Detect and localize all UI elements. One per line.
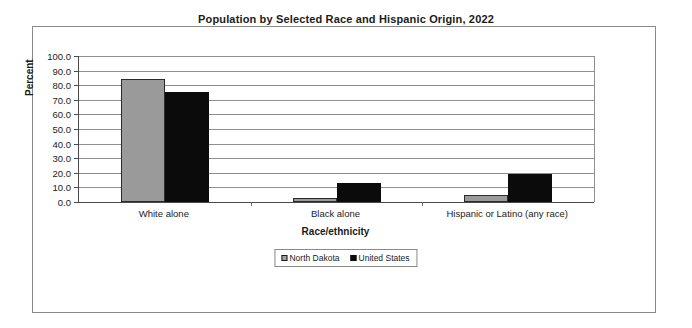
y-axis-tick: [74, 85, 79, 86]
bar-united-states-hispanic-or-latino-any-race: [508, 174, 552, 202]
bar-united-states-white-alone: [165, 92, 209, 202]
legend-swatch-icon: [281, 255, 287, 261]
x-axis-category-label: White alone: [139, 208, 189, 219]
x-axis-category-label: Hispanic or Latino (any race): [446, 208, 567, 219]
legend-item-label: North Dakota: [289, 253, 339, 263]
x-axis-title: Race/ethnicity: [78, 226, 593, 237]
y-axis-tick-label: 80.0: [53, 80, 72, 91]
y-axis-tick: [74, 187, 79, 188]
y-axis-tick-label: 0.0: [58, 197, 71, 208]
y-axis-tick-label: 40.0: [53, 138, 72, 149]
y-axis-tick-label: 10.0: [53, 182, 72, 193]
legend-swatch-icon: [351, 255, 357, 261]
y-axis-tick: [74, 158, 79, 159]
bar-north-dakota-white-alone: [121, 79, 165, 202]
y-axis-tick-label: 60.0: [53, 109, 72, 120]
y-axis-tick-label: 90.0: [53, 65, 72, 76]
y-axis-tick-label: 70.0: [53, 94, 72, 105]
y-axis-tick: [74, 71, 79, 72]
y-axis-tick-label: 100.0: [47, 51, 71, 62]
y-axis-tick: [74, 173, 79, 174]
y-axis-tick: [74, 56, 79, 57]
legend-item-north-dakota[interactable]: North Dakota: [281, 253, 339, 263]
y-axis-tick-label: 50.0: [53, 124, 72, 135]
y-axis-tick: [74, 129, 79, 130]
plot-area: 100.090.080.070.060.050.040.030.020.010.…: [78, 56, 594, 203]
bar-united-states-black-alone: [337, 183, 381, 202]
bar-north-dakota-hispanic-or-latino-any-race: [464, 195, 508, 202]
y-axis-title: Percent: [24, 59, 35, 96]
chart-legend: North DakotaUnited States: [274, 249, 417, 267]
y-axis-tick: [74, 202, 79, 203]
x-axis-separator: [422, 202, 423, 206]
chart-title: Population by Selected Race and Hispanic…: [0, 13, 692, 25]
y-axis-tick: [74, 114, 79, 115]
gridline: [79, 56, 594, 57]
y-axis-tick: [74, 100, 79, 101]
bar-north-dakota-black-alone: [293, 198, 337, 202]
legend-item-label: United States: [359, 253, 410, 263]
x-axis-category-label: Black alone: [311, 208, 360, 219]
legend-item-united-states[interactable]: United States: [351, 253, 410, 263]
plot-right-border: [594, 56, 595, 202]
y-axis-tick-label: 20.0: [53, 167, 72, 178]
gridline: [79, 71, 594, 72]
y-axis-tick-label: 30.0: [53, 153, 72, 164]
x-axis-separator: [251, 202, 252, 206]
y-axis-tick: [74, 144, 79, 145]
